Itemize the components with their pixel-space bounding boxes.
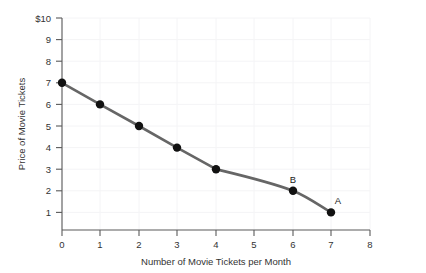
x-tick-label-1: 1: [97, 239, 102, 250]
y-tick-label-4: 4: [46, 142, 51, 153]
y-tick-label-5: 5: [46, 121, 51, 132]
x-tick-label-4: 4: [213, 239, 218, 250]
x-axis-title: Number of Movie Tickets per Month: [141, 256, 291, 267]
y-tick-label-3: 3: [46, 164, 51, 175]
x-tick-label-5: 5: [251, 239, 256, 250]
x-tick-label-8: 8: [367, 239, 372, 250]
x-tick-label-2: 2: [136, 239, 141, 250]
y-tick-label-2: 2: [46, 185, 51, 196]
y-tick-label-7: 7: [46, 77, 51, 88]
data-point-1-6: [96, 100, 104, 108]
data-point-3-4: [173, 143, 181, 151]
y-tick-label-10: $10: [35, 13, 51, 24]
y-tick-label-9: 9: [46, 34, 51, 45]
data-point-0-7: [58, 79, 66, 87]
chart-background: [0, 0, 426, 273]
y-tick-label-1: 1: [46, 207, 51, 218]
y-axis-title: Price of Movie Tickets: [16, 78, 27, 171]
annotation-label-a: A: [335, 195, 342, 206]
x-tick-label-0: 0: [59, 239, 64, 250]
chart-root: $10 9 8 7 6 5 4 3 2 1 0 1 2 3 4 5 6 7 8 …: [0, 0, 426, 273]
data-point-b-6-2: [289, 187, 297, 195]
data-point-4-3: [212, 165, 220, 173]
data-point-a-7-1: [327, 208, 335, 216]
data-point-2-5: [135, 122, 143, 130]
x-tick-label-6: 6: [290, 239, 295, 250]
demand-curve-chart: $10 9 8 7 6 5 4 3 2 1 0 1 2 3 4 5 6 7 8 …: [0, 0, 426, 273]
x-tick-label-7: 7: [328, 239, 333, 250]
x-tick-label-3: 3: [174, 239, 179, 250]
y-tick-label-6: 6: [46, 99, 51, 110]
annotation-label-b: B: [290, 174, 296, 185]
y-tick-label-8: 8: [46, 56, 51, 67]
